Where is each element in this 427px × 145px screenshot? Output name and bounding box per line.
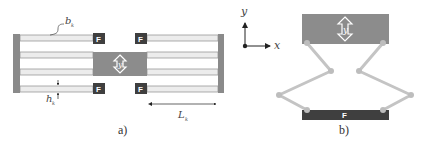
right-beams (147, 35, 218, 92)
svg-text:F: F (138, 35, 143, 44)
shuttle-label: y (117, 60, 123, 69)
right-anchor (218, 34, 224, 93)
svg-text:F: F (96, 85, 101, 94)
panel-a-caption: a) (118, 123, 127, 137)
panel-a: y F F F F b k h k L k a) (13, 15, 224, 137)
left-beams (20, 35, 93, 92)
force-label-b: F (342, 111, 347, 120)
joints (276, 40, 414, 113)
beam-height-subscript: k (52, 100, 55, 106)
coordinate-axes: y x (240, 5, 281, 52)
force-marker-bottom-right: F (135, 83, 147, 94)
force-marker-top-left: F (93, 33, 105, 44)
figure: y F F F F b k h k L k a) (0, 0, 427, 145)
axis-y-label: y (240, 5, 248, 18)
beam-length-subscript: k (185, 116, 188, 122)
svg-text:F: F (96, 35, 101, 44)
force-marker-bottom-left: F (93, 83, 105, 94)
force-marker-top-right: F (135, 33, 147, 44)
beam-width-leader (50, 24, 64, 35)
axis-x-label: x (274, 39, 281, 52)
left-anchor (13, 34, 20, 93)
linkage (279, 43, 411, 110)
beam-length-label: L (177, 109, 185, 120)
beam-width-subscript: k (71, 22, 74, 28)
shuttle-label-b: y (342, 25, 349, 35)
panel-b: y x y F b) (240, 5, 414, 137)
panel-b-caption: b) (339, 123, 349, 137)
svg-text:F: F (138, 85, 143, 94)
